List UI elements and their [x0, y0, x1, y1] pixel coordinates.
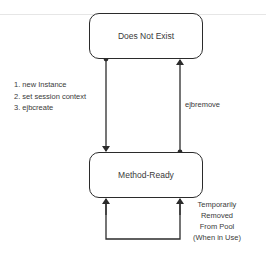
create-transition-label: 1. new Instance 2. set session context 3… [14, 79, 86, 114]
pool-label-line-3: From Pool [193, 221, 241, 232]
pool-label-line-2: Removed [193, 210, 241, 221]
create-step-2: 2. set session context [14, 91, 86, 103]
remove-transition-arrow [178, 60, 183, 154]
pool-loop-label: Temporarily Removed From Pool (When in U… [193, 199, 241, 243]
create-step-3: 3. ejbcreate [14, 102, 86, 114]
create-step-1: 1. new Instance [14, 79, 86, 91]
state-label: Does Not Exist [118, 31, 174, 41]
state-method-ready: Method-Ready [89, 152, 203, 198]
state-does-not-exist: Does Not Exist [89, 13, 203, 59]
pool-label-line-1: Temporarily [193, 199, 241, 210]
create-transition-arrow [104, 57, 109, 151]
pool-label-line-4: (When in Use) [193, 232, 241, 243]
pool-loop-arrow [106, 199, 180, 239]
state-label: Method-Ready [118, 170, 174, 180]
remove-transition-label: ejbremove [185, 99, 220, 111]
